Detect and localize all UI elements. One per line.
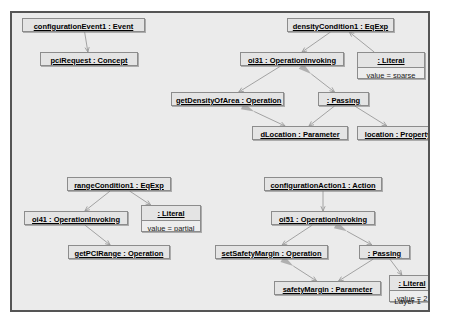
edge-configurationEvent1-to-pciRequest: [85, 32, 90, 52]
edge-line: [311, 74, 334, 92]
node-getPCIRange[interactable]: getPCIRange : Operation: [68, 245, 170, 259]
node-title: dLocation : Parameter: [253, 127, 347, 140]
node-rangeLiteral[interactable]: : Literalvalue = partial: [141, 205, 201, 232]
node-densityCondition1[interactable]: densityCondition1 : EqExp: [287, 18, 394, 32]
node-title: : Literal: [390, 276, 430, 291]
edge-line: [293, 266, 316, 281]
node-oi31[interactable]: oi31 : OperationInvoking: [240, 52, 344, 66]
node-title: configurationAction1 : Action: [265, 178, 381, 191]
node-title: densityCondition1 : EqExp: [288, 19, 393, 32]
edge-line: [282, 225, 312, 245]
node-slot: value = partial: [142, 221, 200, 232]
node-slot: value = sparse: [358, 68, 424, 79]
edge-densityPassing-to-dLocation: [309, 106, 335, 126]
edge-line: [85, 32, 88, 52]
node-safetyPassing[interactable]: : Passing: [359, 245, 410, 259]
edge-line: [130, 191, 151, 205]
edge-densityCondition1-to-oi31: [302, 32, 331, 52]
edge-line: [339, 259, 374, 281]
edge-getDensityOfArea-to-dLocation: [241, 103, 285, 126]
edge-line: [239, 66, 281, 92]
node-title: oi51 : OperationInvoking: [272, 212, 374, 225]
edge-line: [355, 106, 387, 126]
node-title: : Literal: [358, 53, 424, 68]
node-setSafetyMargin[interactable]: setSafetyMargin : Operation: [215, 245, 328, 259]
edge-line: [85, 191, 110, 211]
node-safetyMargin[interactable]: safetyMargin : Parameter: [274, 281, 381, 295]
node-title: setSafetyMargin : Operation: [216, 246, 327, 259]
node-title: oi41 : OperationInvoking: [25, 212, 127, 225]
edge-line: [347, 231, 372, 245]
node-title: safetyMargin : Parameter: [275, 282, 380, 295]
node-dLocation[interactable]: dLocation : Parameter: [252, 126, 348, 140]
layer-label: Layer 1: [394, 297, 421, 306]
node-title: configurationEvent1 : Event: [23, 19, 144, 32]
node-densityLiteral[interactable]: : Literalvalue = sparse: [357, 52, 425, 79]
node-title: : Passing: [319, 93, 368, 106]
edge-line: [302, 32, 331, 52]
edge-line: [309, 106, 335, 126]
edge-rangeCondition1-to-oi41: [85, 191, 110, 211]
edge-densityLiteral-to-densityCondition1: [349, 32, 374, 52]
arrowhead-icon: [349, 32, 354, 37]
edge-oi41-to-getPCIRange: [85, 225, 110, 245]
node-getDensityOfArea[interactable]: getDensityOfArea : Operation: [171, 92, 284, 106]
node-title: getDensityOfArea : Operation: [172, 93, 283, 106]
node-densityPassing[interactable]: : Passing: [318, 92, 369, 106]
edge-oi31-to-getDensityOfArea: [239, 66, 281, 92]
edge-oi51-to-safetyPassing: [334, 222, 372, 245]
edge-safetyPassing-to-safetyMargin: [339, 259, 374, 281]
node-title: rangeCondition1 : EqExp: [68, 178, 170, 191]
edge-densityPassing-to-location: [355, 106, 387, 126]
node-title: : Passing: [360, 246, 409, 259]
node-title: getPCIRange : Operation: [69, 246, 169, 259]
edge-line: [349, 32, 374, 52]
edge-rangeCondition1-to-rangeLiteral: [130, 191, 151, 205]
node-rangeCondition1[interactable]: rangeCondition1 : EqExp: [67, 177, 171, 191]
node-location[interactable]: location : Property: [357, 126, 430, 140]
edge-safetyPassing-to-safetyLiteral: [390, 259, 402, 275]
edge-configurationAction1-to-oi51: [321, 191, 325, 211]
edge-line: [254, 112, 285, 126]
node-title: : Literal: [142, 206, 200, 221]
node-title: oi31 : OperationInvoking: [241, 53, 343, 66]
node-configurationEvent1[interactable]: configurationEvent1 : Event: [22, 18, 145, 32]
diagram-canvas[interactable]: configurationEvent1 : EventpciRequest : …: [10, 11, 430, 312]
node-configurationAction1[interactable]: configurationAction1 : Action: [264, 177, 382, 191]
edge-line: [390, 259, 402, 275]
node-title: location : Property: [358, 127, 430, 140]
node-pciRequest[interactable]: pciRequest : Concept: [40, 52, 138, 66]
edge-oi31-to-densityPassing: [299, 63, 335, 92]
node-title: pciRequest : Concept: [41, 53, 137, 66]
edge-setSafetyMargin-to-safetyMargin: [280, 256, 316, 281]
edge-line: [85, 225, 110, 245]
node-oi51[interactable]: oi51 : OperationInvoking: [271, 211, 375, 225]
edge-oi51-to-setSafetyMargin: [282, 225, 312, 245]
node-oi41[interactable]: oi41 : OperationInvoking: [24, 211, 128, 225]
